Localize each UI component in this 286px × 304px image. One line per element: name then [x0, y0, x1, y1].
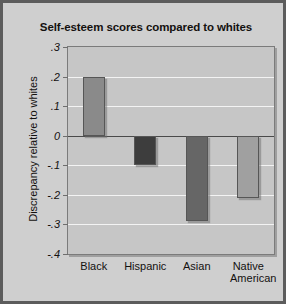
y-axis-tick-label: 0: [54, 130, 60, 142]
x-axis-label-line: Native: [220, 260, 276, 272]
x-axis-label: Black: [80, 260, 107, 272]
y-axis-tick-label: -.2: [47, 189, 60, 201]
y-axis-tick-label: -.3: [47, 218, 60, 230]
y-axis-tick: [63, 106, 68, 107]
x-axis-label-line: American: [230, 272, 276, 284]
y-axis-tick: [63, 195, 68, 196]
chart-title: Self-esteem scores compared to whites: [3, 21, 286, 33]
y-axis-tick: [63, 77, 68, 78]
y-axis-tick-label: -.1: [47, 159, 60, 171]
y-axis-tick-label: .3: [51, 41, 60, 53]
gridline: [68, 224, 274, 225]
x-axis-label: Asian: [183, 260, 211, 272]
x-axis-label-line: Hispanic: [124, 260, 166, 272]
bar: [83, 77, 105, 136]
y-axis-tick: [63, 224, 68, 225]
x-axis-label: NativeAmerican: [220, 260, 276, 284]
bar: [237, 136, 259, 198]
y-axis-tick-label: .1: [51, 100, 60, 112]
y-axis-tick: [63, 165, 68, 166]
bar: [134, 136, 156, 166]
x-axis-label-line: Asian: [183, 260, 211, 272]
y-axis-tick-label: .2: [51, 71, 60, 83]
y-axis-label: Discrepancy relative to whites: [27, 49, 39, 249]
bar: [186, 136, 208, 222]
y-axis-tick: [63, 136, 68, 137]
y-axis-tick: [63, 47, 68, 48]
y-axis-tick-label: -.4: [47, 248, 60, 260]
chart-figure: Self-esteem scores compared to whites Di…: [0, 0, 286, 304]
faint-header-text: [21, 4, 221, 13]
x-axis-label-line: Black: [80, 260, 107, 272]
plot-area: .3.2.10-.1-.2-.3-.4 BlackHispanicAsianNa…: [67, 46, 275, 255]
y-axis-tick: [63, 254, 68, 255]
x-axis-label: Hispanic: [124, 260, 166, 272]
